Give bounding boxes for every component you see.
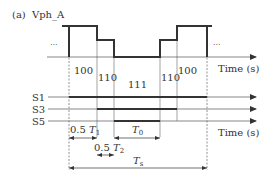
state-label-3: 111 [128, 79, 147, 90]
panel-label: (a) [12, 9, 26, 20]
switch-label-s3: S3 [32, 104, 45, 115]
vph-a-waveform [62, 26, 212, 57]
interval-ts-label: Ts [133, 155, 144, 168]
svpwm-switching-diagram: (a) Vph_A ... ... Time (s) 100 110 111 1… [0, 0, 269, 183]
time-axis-top-label: Time (s) [218, 63, 259, 74]
ellipsis-right: ... [213, 38, 221, 47]
signal-name: Vph_A [31, 9, 65, 21]
state-label-5: 100 [178, 65, 197, 76]
time-axis-bottom-label: Time (s) [218, 127, 259, 138]
ellipsis-left: ... [50, 38, 58, 47]
interval-t0-label: T0 [132, 124, 143, 137]
state-label-1: 100 [74, 65, 93, 76]
interval-half-t2-label: 0.5 T2 [94, 142, 124, 155]
switch-label-s1: S1 [32, 92, 45, 103]
state-label-2: 110 [98, 72, 117, 83]
interval-half-t1-label: 0.5 T1 [70, 124, 100, 137]
switch-label-s5: S5 [32, 116, 45, 127]
